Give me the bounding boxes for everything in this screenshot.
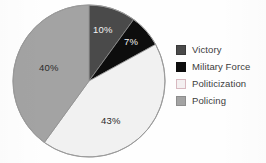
legend-item-military-force[interactable]: Military Force bbox=[176, 58, 264, 75]
legend-swatch-victory bbox=[176, 45, 186, 55]
legend-label-military-force: Military Force bbox=[192, 61, 250, 72]
legend-item-policing[interactable]: Policing bbox=[176, 92, 264, 109]
legend-swatch-politicization bbox=[176, 79, 186, 89]
legend-label-policing: Policing bbox=[192, 95, 226, 106]
legend-item-politicization[interactable]: Politicization bbox=[176, 75, 264, 92]
chart-legend: Victory Military Force Politicization Po… bbox=[176, 41, 264, 109]
pie-slices-group bbox=[13, 5, 165, 157]
pie-chart-figure: 10%7%43%40% Victory Military Force Polit… bbox=[0, 0, 266, 163]
legend-label-victory: Victory bbox=[192, 44, 222, 55]
pie-svg bbox=[0, 0, 180, 163]
legend-item-victory[interactable]: Victory bbox=[176, 41, 264, 58]
legend-swatch-policing bbox=[176, 96, 186, 106]
legend-label-politicization: Politicization bbox=[192, 78, 246, 89]
legend-swatch-military-force bbox=[176, 62, 186, 72]
pie-plot-area: 10%7%43%40% bbox=[0, 0, 180, 163]
